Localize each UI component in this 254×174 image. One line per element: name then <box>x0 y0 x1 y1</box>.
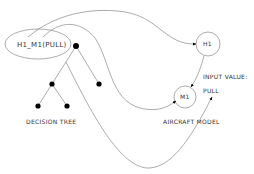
tree-leaf-dot <box>96 81 101 86</box>
aircraft-model-label: AIRCRAFT MODEL <box>163 118 220 125</box>
m1-label: M1 <box>180 93 190 100</box>
tree-leaf-dot <box>35 103 40 108</box>
decision-tree-label: DECISION TREE <box>26 118 76 125</box>
input-value-title: INPUT VALUE: <box>203 73 248 80</box>
input-value: PULL <box>203 87 219 94</box>
decision-tree-dots <box>35 43 101 109</box>
h1-label: H1 <box>203 40 212 47</box>
diagram-canvas: H1_M1(PULL) DECISION TREE H1 M1 AIRCRAFT… <box>0 0 254 174</box>
curve-to-h1 <box>28 10 196 44</box>
decision-node-label: H1_M1(PULL) <box>17 41 67 49</box>
tree-root-dot <box>73 43 79 49</box>
curve-to-input-value <box>66 62 212 168</box>
tree-leaf-dot <box>64 103 69 108</box>
decision-tree <box>38 46 99 106</box>
tree-node-dot <box>49 81 54 86</box>
curve-h1-to-m1 <box>191 56 204 87</box>
